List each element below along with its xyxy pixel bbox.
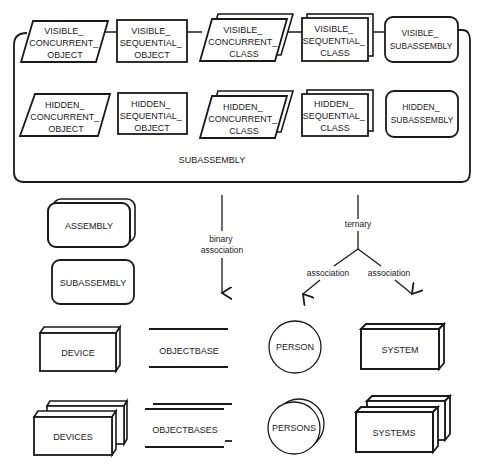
assembly-label: ASSEMBLY (65, 221, 113, 231)
person-symbol: PERSON (269, 321, 321, 373)
visible-sequential-object: VISIBLE_ SEQUENTIAL_ OBJECT (117, 20, 187, 62)
label-line: CONCURRENT_ (29, 38, 99, 48)
objectbases-symbol: OBJECTBASES (145, 404, 232, 447)
device-symbol: DEVICE (40, 327, 120, 371)
notation-diagram: SUBASSEMBLY VISIBLE_ CONCURRENT_ OBJECT … (0, 0, 478, 465)
system-symbol: SYSTEM (361, 324, 444, 369)
association-right-label: association (368, 268, 411, 278)
binary-association: binary association (201, 195, 244, 293)
objectbase-symbol: OBJECTBASE (149, 329, 228, 367)
visible-concurrent-object: VISIBLE_ CONCURRENT_ OBJECT (21, 21, 108, 62)
devices-symbol: DEVICES (34, 401, 127, 455)
association-left-label: association (307, 268, 350, 278)
container-label: SUBASSEMBLY (179, 155, 245, 165)
ternary-association: ternary association association (303, 195, 412, 294)
subassembly-label: SUBASSEMBLY (60, 278, 126, 288)
hidden-concurrent-object: HIDDEN_ CONCURRENT_ OBJECT (20, 94, 110, 136)
persons-label: PERSONS (272, 423, 316, 433)
label-line: OBJECT (47, 50, 83, 60)
label-line: VISIBLE_ (44, 26, 84, 36)
visible-subassembly: VISIBLE_ SUBASSEMBLY (385, 17, 458, 62)
visible-concurrent-class: VISIBLE_ CONCURRENT_ CLASS (200, 14, 293, 61)
device-label: DEVICE (61, 348, 95, 358)
diagram-canvas: SUBASSEMBLY VISIBLE_ CONCURRENT_ OBJECT … (0, 0, 478, 465)
assembly-symbol: ASSEMBLY (48, 199, 135, 247)
hidden-subassembly: HIDDEN_ SUBASSEMBLY (386, 91, 458, 137)
ternary-label: ternary (345, 219, 372, 229)
hidden-sequential-class: HIDDEN_ SEQUENTIAL_ CLASS (302, 90, 373, 136)
systems-symbol: SYSTEMS (356, 396, 450, 452)
hidden-concurrent-class: HIDDEN_ CONCURRENT_ CLASS (200, 91, 293, 138)
persons-symbol: PERSONS (268, 399, 324, 454)
systems-label: SYSTEMS (372, 428, 415, 438)
objectbases-label: OBJECTBASES (152, 425, 218, 435)
devices-label: DEVICES (53, 432, 93, 442)
hidden-sequential-object: HIDDEN_ SEQUENTIAL_ OBJECT (118, 93, 187, 134)
system-label: SYSTEM (381, 345, 418, 355)
svg-text:binary association: binary association (201, 234, 244, 255)
visible-sequential-class: VISIBLE_ SEQUENTIAL_ CLASS (302, 14, 373, 61)
subassembly-symbol: SUBASSEMBLY (52, 260, 134, 304)
objectbase-label: OBJECTBASE (159, 346, 219, 356)
person-label: PERSON (276, 342, 314, 352)
